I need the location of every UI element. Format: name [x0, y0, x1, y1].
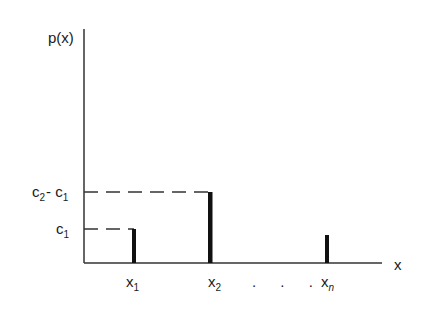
ellipsis: . . .: [252, 273, 323, 290]
bar-xn: [325, 235, 329, 263]
x-axis-label: x: [394, 256, 402, 273]
bar-x2: [208, 192, 213, 263]
y-tick-c2-minus-c1: c2- c1: [32, 183, 69, 203]
x-tick-x2: x2: [208, 273, 222, 293]
pmf-diagram: p(x) x c2- c1 c1 x1 x2 . . . xn: [0, 0, 424, 320]
x-tick-x1: x1: [126, 273, 140, 293]
y-tick-c1: c1: [56, 220, 70, 240]
y-axis-label: p(x): [48, 29, 74, 46]
bar-x1: [132, 229, 136, 263]
x-tick-xn: xn: [321, 273, 335, 293]
